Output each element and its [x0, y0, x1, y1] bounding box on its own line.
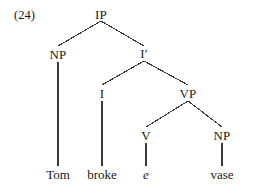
tree-node-ip: IP: [95, 8, 107, 21]
tree-terminal-broke: broke: [87, 168, 117, 181]
tree-node-i: I: [100, 87, 105, 100]
tree-node-ibar: I′: [140, 47, 148, 60]
tree-edge-ip-to-np1: [58, 21, 101, 46]
tree-terminal-tom: Tom: [46, 168, 70, 181]
tree-terminal-vase: vase: [210, 168, 233, 181]
tree-edge-vp-to-v: [146, 101, 188, 127]
tree-node-v: V: [141, 129, 151, 142]
tree-node-vp: VP: [179, 87, 196, 100]
tree-node-np1: NP: [49, 48, 66, 61]
tree-terminal-e: e: [143, 168, 149, 181]
tree-branch-lines: [0, 0, 256, 188]
syntax-tree-figure: (24) IPNPI′IVPVNP Tombrokeevase: [0, 0, 256, 188]
tree-edge-ip-to-ibar: [101, 21, 144, 46]
tree-edge-ibar-to-i: [102, 61, 144, 85]
tree-edge-ibar-to-vp: [144, 61, 188, 85]
tree-edge-vp-to-np2: [188, 101, 222, 127]
tree-node-np2: NP: [213, 129, 230, 142]
